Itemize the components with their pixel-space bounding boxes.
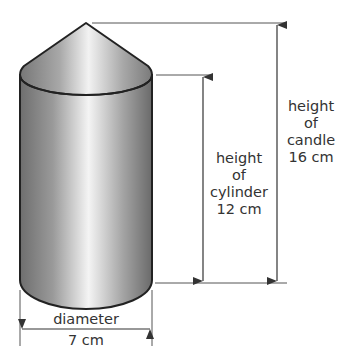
cylinder-height-label: height of cylinder 12 cm	[204, 150, 274, 218]
diameter-value: 7 cm	[20, 332, 152, 349]
candle-height-label: height of candle 16 cm	[282, 98, 340, 166]
cylinder-height-value: 12 cm	[204, 201, 274, 218]
cylinder	[20, 75, 152, 309]
cone	[20, 23, 152, 95]
candle-height-value: 16 cm	[282, 149, 340, 166]
cylinder-height-label-line3: cylinder	[204, 184, 274, 201]
diameter-label-text: diameter	[20, 311, 152, 328]
candle-height-label-line2: of	[282, 115, 340, 132]
candle-diagram	[0, 0, 340, 364]
candle-height-label-line1: height	[282, 98, 340, 115]
cylinder-height-label-line1: height	[204, 150, 274, 167]
cylinder-height-label-line2: of	[204, 167, 274, 184]
diameter-label: diameter 7 cm	[20, 311, 152, 349]
candle-height-label-line3: candle	[282, 132, 340, 149]
